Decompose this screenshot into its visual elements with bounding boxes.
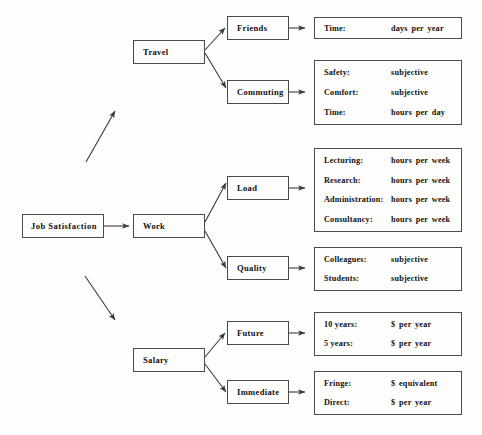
panel-row: Research: hours per week <box>315 171 461 191</box>
attribute-value: $ per year <box>391 398 431 407</box>
node-quality[interactable]: Quality <box>227 256 289 280</box>
attribute-key: Time: <box>315 108 391 117</box>
attribute-value: $ per year <box>391 320 431 329</box>
attribute-value: hours per week <box>391 195 450 204</box>
panel-row: Administration: hours per week <box>315 190 461 210</box>
node-label-future: Future <box>228 328 264 338</box>
panel-row: Lecturing: hours per week <box>315 151 461 171</box>
attribute-value: subjective <box>391 274 428 283</box>
attribute-value: hours per week <box>391 215 450 224</box>
attribute-key: Research: <box>315 176 391 185</box>
edge-root-to-travel <box>86 111 115 162</box>
edge-salary-to-future <box>205 333 225 357</box>
node-future[interactable]: Future <box>227 321 289 345</box>
node-label-work: Work <box>134 221 165 231</box>
job-satisfaction-diagram: Job Satisfaction Travel Work Salary Frie… <box>0 0 482 435</box>
panel-future: 10 years: $ per year 5 years: $ per year <box>314 312 462 356</box>
node-label-job-satisfaction: Job Satisfaction <box>23 221 97 231</box>
attribute-key: Direct: <box>315 398 391 407</box>
attribute-key: Lecturing: <box>315 156 391 165</box>
edge-work-to-load <box>205 183 226 222</box>
attribute-key: 5 years: <box>315 339 391 348</box>
edge-salary-to-immediate <box>205 364 226 392</box>
panel-row: Direct: $ per year <box>315 393 461 412</box>
panel-row: Students: subjective <box>315 269 461 288</box>
attribute-value: days per year <box>391 24 444 33</box>
attribute-key: Safety: <box>315 68 391 77</box>
attribute-value: hours per week <box>391 176 450 185</box>
attribute-key: Comfort: <box>315 88 391 97</box>
node-work[interactable]: Work <box>133 214 205 238</box>
attribute-key: Consultancy: <box>315 215 391 224</box>
node-load[interactable]: Load <box>227 176 289 200</box>
panel-load: Lecturing: hours per week Research: hour… <box>314 148 462 232</box>
attribute-value: hours per day <box>391 108 445 117</box>
node-salary[interactable]: Salary <box>133 348 205 372</box>
node-label-friends: Friends <box>228 23 267 33</box>
node-friends[interactable]: Friends <box>227 16 289 40</box>
panel-row: Time: days per year <box>315 20 461 36</box>
attribute-key: Students: <box>315 274 391 283</box>
attribute-value: subjective <box>391 255 428 264</box>
node-label-commuting: Commuting <box>228 87 284 97</box>
panel-commuting: Safety: subjective Comfort: subjective T… <box>314 60 462 125</box>
edge-work-to-quality <box>205 231 226 268</box>
edge-travel-to-friends <box>205 28 225 50</box>
panel-quality: Colleagues: subjective Students: subject… <box>314 247 462 291</box>
node-label-salary: Salary <box>134 355 169 365</box>
panel-friends: Time: days per year <box>314 17 462 39</box>
node-label-quality: Quality <box>228 263 267 273</box>
edge-root-to-salary <box>85 276 115 320</box>
node-label-travel: Travel <box>134 47 169 57</box>
attribute-key: Fringe: <box>315 379 391 388</box>
panel-row: Fringe: $ equivalent <box>315 374 461 393</box>
panel-row: 10 years: $ per year <box>315 315 461 334</box>
node-commuting[interactable]: Commuting <box>227 80 289 104</box>
node-immediate[interactable]: Immediate <box>227 380 289 404</box>
node-label-load: Load <box>228 183 257 193</box>
attribute-key: Colleagues: <box>315 255 391 264</box>
node-label-immediate: Immediate <box>228 387 279 397</box>
panel-row: Colleagues: subjective <box>315 250 461 269</box>
attribute-key: Time: <box>315 24 391 33</box>
attribute-value: $ per year <box>391 339 431 348</box>
panel-row: Time: hours per day <box>315 102 461 122</box>
panel-row: Comfort: subjective <box>315 83 461 103</box>
attribute-value: $ equivalent <box>391 379 437 388</box>
attribute-value: subjective <box>391 88 428 97</box>
panel-row: Consultancy: hours per week <box>315 210 461 230</box>
attribute-value: hours per week <box>391 156 450 165</box>
node-travel[interactable]: Travel <box>133 40 205 64</box>
panel-immediate: Fringe: $ equivalent Direct: $ per year <box>314 371 462 415</box>
node-job-satisfaction[interactable]: Job Satisfaction <box>22 214 104 238</box>
edge-travel-to-commuting <box>205 53 226 88</box>
attribute-key: Administration: <box>315 195 391 204</box>
panel-row: 5 years: $ per year <box>315 334 461 353</box>
attribute-value: subjective <box>391 68 428 77</box>
attribute-key: 10 years: <box>315 320 391 329</box>
panel-row: Safety: subjective <box>315 63 461 83</box>
